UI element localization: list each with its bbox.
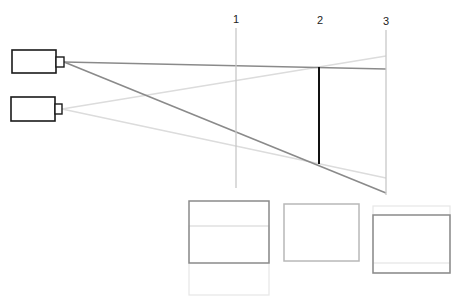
ray-bottom-lower: [62, 109, 386, 178]
frame-1: [189, 201, 269, 295]
plane-2-label: 2: [317, 14, 323, 26]
camera-top-icon: [12, 50, 64, 73]
ray-top-upper: [64, 62, 386, 69]
frame-3: [373, 206, 450, 273]
frame-2: [284, 204, 359, 261]
stereo-diagram: 1 2 3: [0, 0, 457, 306]
ray-bottom-upper: [62, 56, 386, 109]
camera-bottom-icon: [11, 97, 62, 121]
plane-3-label: 3: [383, 15, 389, 27]
plane-1-label: 1: [233, 13, 239, 25]
